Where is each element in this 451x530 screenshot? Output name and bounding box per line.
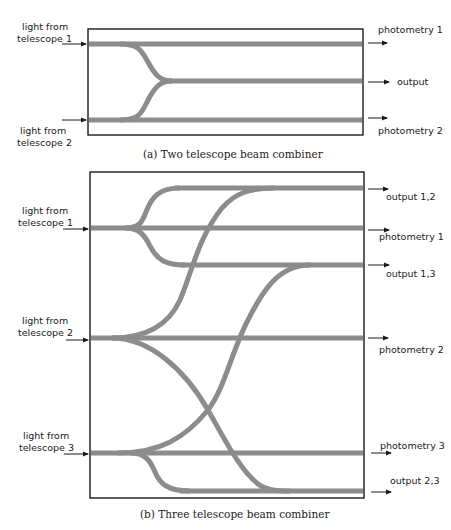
input-label-telescope-1: light from (22, 21, 68, 32)
input-label-telescope-3: light from (23, 430, 69, 441)
input-label-telescope-2: telescope 2 (17, 137, 72, 148)
input-label-telescope-1: telescope 1 (17, 33, 72, 44)
waveguides-a (89, 44, 362, 120)
output-label-photometry-1: photometry 1 (379, 231, 444, 242)
waveguides-b (91, 188, 363, 491)
output-label-output-1-2: output 1,2 (386, 191, 435, 202)
input-label-telescope-2: light from (22, 315, 68, 326)
waveguide-branch-lower (120, 81, 172, 120)
output-label-photometry-3: photometry 3 (380, 440, 445, 451)
input-label-telescope-1: telescope 1 (18, 217, 73, 228)
caption-b: (b) Three telescope beam combiner (140, 508, 330, 520)
three-telescope-diagram: light from telescope 1 light from telesc… (18, 172, 445, 520)
waveguide-branch-upper (120, 44, 172, 81)
input-label-telescope-3: telescope 3 (19, 442, 74, 453)
output-label-photometry-1: photometry 1 (378, 24, 443, 35)
output-label-photometry-2: photometry 2 (378, 125, 443, 136)
two-telescope-diagram: light from telescope 1 light from telesc… (17, 21, 443, 160)
caption-a: (a) Two telescope beam combiner (143, 148, 324, 160)
input-label-telescope-2: light from (20, 125, 66, 136)
output-label-output-2-3: output 2,3 (390, 475, 439, 486)
beam-combiner-figure: light from telescope 1 light from telesc… (0, 0, 451, 530)
output-label-photometry-2: photometry 2 (379, 344, 444, 355)
output-label-output-1-3: output 1,3 (386, 268, 435, 279)
input-label-telescope-2: telescope 2 (18, 327, 73, 338)
waveguide-t3-down (130, 453, 190, 491)
output-label-output: output (397, 76, 429, 87)
input-label-telescope-1: light from (22, 205, 68, 216)
waveguide-t1-down (125, 228, 185, 265)
waveguide-t1-up (125, 188, 180, 228)
